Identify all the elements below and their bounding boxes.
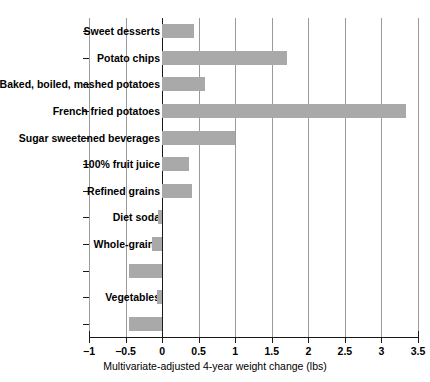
x-tick bbox=[235, 337, 236, 343]
x-tick-label: 0 bbox=[142, 345, 182, 357]
y-axis-label: Vegetables bbox=[0, 291, 160, 303]
x-tick bbox=[418, 337, 419, 343]
x-tick bbox=[272, 337, 273, 343]
x-tick-label: −0.5 bbox=[106, 345, 146, 357]
gridline bbox=[381, 18, 382, 337]
x-tick bbox=[381, 337, 382, 343]
y-axis-label: French fried potatoes bbox=[0, 105, 160, 117]
plot-area bbox=[89, 18, 418, 337]
gridline bbox=[418, 18, 419, 337]
x-tick bbox=[199, 337, 200, 343]
y-axis-label: Potato chips bbox=[0, 52, 160, 64]
bar bbox=[162, 157, 189, 171]
gridline bbox=[199, 18, 200, 337]
bar bbox=[152, 237, 162, 251]
x-tick bbox=[162, 337, 163, 343]
bar bbox=[162, 184, 192, 198]
x-tick-label: 2 bbox=[288, 345, 328, 357]
x-tick bbox=[308, 337, 309, 343]
bar bbox=[162, 131, 235, 145]
gridline bbox=[126, 18, 127, 337]
bar bbox=[162, 51, 287, 65]
bar bbox=[158, 210, 162, 224]
gridline bbox=[89, 18, 90, 337]
y-axis-label: 100% fruit juice bbox=[0, 158, 160, 170]
x-tick-label: 3.5 bbox=[398, 345, 430, 357]
bar-chart: −1−0.500.511.522.533.5 Sweet dessertsPot… bbox=[0, 0, 430, 382]
bar bbox=[129, 264, 162, 278]
x-tick-label: 0.5 bbox=[179, 345, 219, 357]
y-axis-label: Sweet desserts bbox=[0, 25, 160, 37]
bar bbox=[162, 77, 205, 91]
bar bbox=[157, 290, 162, 304]
x-tick bbox=[345, 337, 346, 343]
x-axis-line bbox=[89, 337, 419, 338]
gridline bbox=[345, 18, 346, 337]
x-tick-label: 1 bbox=[215, 345, 255, 357]
y-axis-label: Baked, boiled, mashed potatoes bbox=[0, 78, 160, 90]
bar bbox=[129, 317, 162, 331]
x-tick-label: 1.5 bbox=[252, 345, 292, 357]
x-tick-label: 3 bbox=[361, 345, 401, 357]
zero-line bbox=[162, 18, 163, 337]
y-axis-label: Diet soda bbox=[0, 211, 160, 223]
x-axis-title: Multivariate-adjusted 4-year weight chan… bbox=[0, 360, 430, 373]
x-tick bbox=[89, 337, 90, 343]
y-axis-label: Refined grains bbox=[0, 185, 160, 197]
gridline bbox=[308, 18, 309, 337]
gridline bbox=[272, 18, 273, 337]
bar bbox=[162, 104, 405, 118]
bar bbox=[162, 24, 194, 38]
x-tick-label: −1 bbox=[69, 345, 109, 357]
gridline bbox=[235, 18, 236, 337]
x-tick bbox=[126, 337, 127, 343]
x-tick-label: 2.5 bbox=[325, 345, 365, 357]
y-axis-label: Whole-grains bbox=[0, 238, 160, 250]
y-axis-label: Sugar sweetened beverages bbox=[0, 132, 160, 144]
